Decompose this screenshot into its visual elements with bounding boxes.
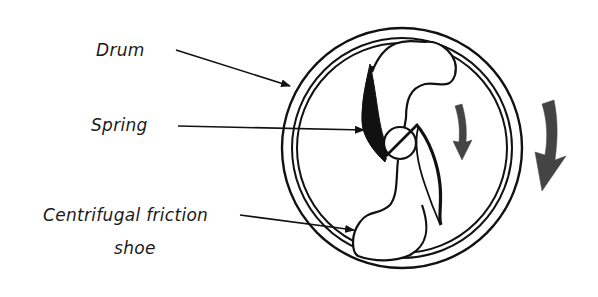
leader-shoe <box>240 215 354 230</box>
clutch-diagram: Drum Spring Centrifugal friction shoe <box>0 0 598 297</box>
label-spring: Spring <box>91 117 148 134</box>
clutch-drawing <box>0 0 598 297</box>
friction-shoe-upper <box>372 41 456 130</box>
label-drum: Drum <box>96 42 145 59</box>
rotation-arrow-outer-icon <box>535 100 566 191</box>
rotation-arrow-inner-icon <box>453 104 472 160</box>
label-shoe-line1: Centrifugal friction <box>43 207 208 224</box>
leader-spring <box>178 126 364 130</box>
friction-shoe-lower <box>353 160 426 260</box>
hub <box>384 126 416 159</box>
label-shoe-line2: shoe <box>114 240 156 257</box>
leader-drum <box>176 50 290 86</box>
